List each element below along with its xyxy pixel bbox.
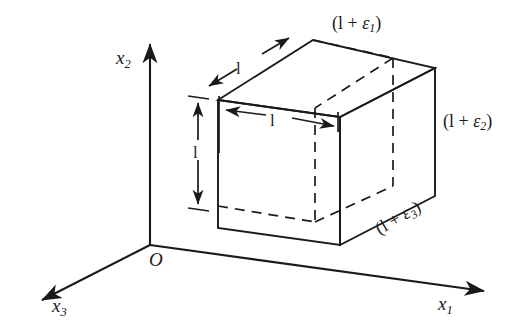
dimension-depth-arrow-lower bbox=[209, 69, 237, 86]
strain-label-epsilon-1-open: (l + bbox=[332, 13, 362, 33]
dimension-height-tick-bottom bbox=[188, 208, 209, 211]
dimension-label-depth: l bbox=[236, 60, 241, 77]
dimension-width-arrow-right bbox=[292, 118, 334, 126]
coordinate-axes bbox=[42, 44, 484, 300]
strain-label-epsilon-2-close: ) bbox=[486, 111, 492, 131]
strain-label-epsilon-2: (l + ε2) bbox=[443, 112, 492, 133]
axis-label-x1-subscript: 1 bbox=[446, 303, 452, 317]
original-cube-bottom-front-edge bbox=[218, 206, 315, 222]
dimension-width-arrow-left bbox=[226, 110, 266, 115]
origin-label: O bbox=[149, 250, 163, 269]
dimension-label-height: l bbox=[193, 144, 198, 161]
axis-label-x2-subscript: 2 bbox=[124, 57, 130, 71]
figure-canvas bbox=[0, 0, 527, 332]
deformed-top-face bbox=[218, 40, 435, 117]
axis-label-x3-subscript: 3 bbox=[60, 305, 66, 319]
axis-x1-line bbox=[150, 245, 484, 291]
original-cube-top-right-edge bbox=[315, 58, 393, 108]
axis-label-x1: x1 bbox=[438, 294, 453, 316]
axis-x3-line bbox=[42, 245, 150, 300]
strain-cube-figure: (l + ε1) (l + ε2) (l + ε3) x1 x2 x3 O l … bbox=[0, 0, 527, 332]
deformed-front-face bbox=[218, 100, 340, 245]
dimension-label-width: l bbox=[270, 112, 275, 129]
original-cube bbox=[218, 40, 393, 222]
dimension-height-tick-top bbox=[188, 96, 209, 99]
strain-label-epsilon-1-close: ) bbox=[375, 13, 381, 33]
axis-label-x3: x3 bbox=[52, 296, 67, 318]
axis-label-x2: x2 bbox=[116, 48, 131, 70]
strain-label-epsilon-2-open: (l + bbox=[443, 111, 473, 131]
strain-label-epsilon-1: (l + ε1) bbox=[332, 14, 381, 35]
dimension-depth-arrow-upper bbox=[262, 38, 289, 54]
